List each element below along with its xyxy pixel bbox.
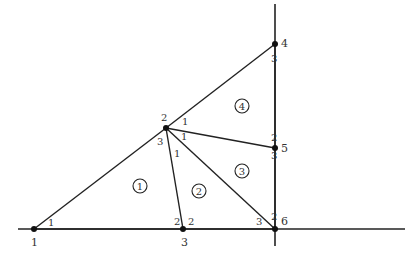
node-6-dot bbox=[272, 226, 278, 232]
local-node-label: 2 bbox=[271, 211, 277, 222]
fem-mesh-diagram: 1345612311122323231234 bbox=[0, 0, 419, 262]
local-node-label: 1 bbox=[48, 217, 54, 228]
local-node-label: 3 bbox=[271, 53, 277, 64]
edge-1-2 bbox=[34, 128, 166, 229]
local-node-label: 2 bbox=[174, 216, 180, 227]
element-label-2: 2 bbox=[196, 186, 202, 197]
local-node-label: 2 bbox=[188, 216, 194, 227]
mesh-edges bbox=[34, 44, 275, 229]
node-1-dot bbox=[31, 226, 37, 232]
local-node-label: 1 bbox=[174, 148, 180, 159]
edge-2-3 bbox=[166, 128, 183, 229]
node-label-4: 4 bbox=[281, 37, 288, 50]
edge-2-6 bbox=[166, 128, 275, 229]
local-node-label: 3 bbox=[157, 136, 163, 147]
node-label-6: 6 bbox=[281, 215, 288, 228]
node-label-5: 5 bbox=[281, 142, 288, 155]
element-label-1: 1 bbox=[137, 181, 143, 192]
local-node-label: 1 bbox=[182, 116, 188, 127]
node-2-dot bbox=[163, 125, 169, 131]
local-node-label: 1 bbox=[181, 131, 187, 142]
node-label-1: 1 bbox=[31, 236, 38, 249]
local-node-label: 3 bbox=[256, 216, 262, 227]
diagram-svg: 1345612311122323231234 bbox=[0, 0, 419, 262]
node-4-dot bbox=[272, 41, 278, 47]
node-label-3: 3 bbox=[181, 236, 188, 249]
axes bbox=[18, 4, 405, 246]
local-node-label: 2 bbox=[271, 132, 277, 143]
element-label-3: 3 bbox=[239, 166, 245, 177]
local-node-label: 3 bbox=[271, 150, 277, 161]
element-label-4: 4 bbox=[239, 101, 245, 112]
local-node-label: 2 bbox=[161, 112, 167, 123]
node-3-dot bbox=[180, 226, 186, 232]
